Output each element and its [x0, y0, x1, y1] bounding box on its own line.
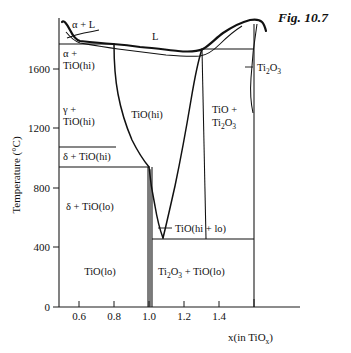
ti2o3-tio-lo-ti: Ti [158, 266, 167, 277]
label-delta-tio-lo: δ + TiO(lo) [66, 201, 114, 213]
phase-diagram-svg: 1600 1200 800 400 0 0.6 0.8 1.0 1.2 1.4 … [0, 0, 351, 353]
label-alpha-tio-hi-line2: TiO(hi) [63, 60, 95, 72]
figure-container: 1600 1200 800 400 0 0.6 0.8 1.0 1.2 1.4 … [0, 0, 351, 353]
label-ti2o3-plus-tio-lo: Ti2O3 + TiO(lo) [158, 266, 225, 280]
ti2o3-tio-lo-rest: + TiO(lo) [182, 266, 225, 278]
ti2o3-right-3: 3 [277, 67, 281, 76]
x-tick-label-1-0: 1.0 [142, 310, 156, 322]
x-axis-title: x(in TiOx) [228, 331, 273, 346]
svg-text:Ti2O3 + TiO(lo): Ti2O3 + TiO(lo) [158, 266, 225, 280]
ti2o3-stack-3: 3 [232, 122, 236, 131]
y-tick-label-800: 800 [34, 182, 51, 194]
x-axis-title-main: x(in TiO [228, 331, 266, 344]
ti2o3-stack-ti: Ti [212, 117, 221, 128]
label-alpha-plus-l: α + L [72, 19, 95, 30]
x-axis-title-close: ) [269, 331, 273, 344]
label-tio-hi-plus-lo: TiO(hi + lo) [175, 223, 227, 235]
label-ti2o3-right: Ti2O3 [257, 62, 281, 76]
y-axis-title: Temperature (°C) [10, 136, 23, 214]
label-tio-lo: TiO(lo) [84, 266, 116, 278]
figure-caption: Fig. 10.7 [277, 10, 329, 25]
label-delta-tio-hi: δ + TiO(hi) [63, 151, 111, 163]
y-tick-label-400: 400 [34, 241, 51, 253]
tio-ti2o3-left-boundary [202, 49, 206, 239]
svg-text:Ti2O3: Ti2O3 [212, 117, 236, 131]
label-tio-hi: TiO(hi) [131, 109, 163, 121]
label-gamma-tio-hi-line1: γ + [62, 104, 76, 115]
x-tick-label-1-4: 1.4 [212, 310, 226, 322]
label-liquid: L [152, 31, 158, 42]
y-tick-label-0: 0 [45, 301, 51, 313]
label-gamma-tio-hi-line2: TiO(hi) [63, 116, 95, 128]
tio-hi-left-boundary [114, 44, 149, 167]
svg-text:Ti2O3: Ti2O3 [257, 62, 281, 76]
y-tick-label-1600: 1600 [28, 63, 51, 75]
label-alpha-tio-hi-line1: α + [63, 48, 77, 59]
x-tick-label-1-2: 1.2 [177, 310, 191, 322]
label-ti2o3-stack: Ti2O3 [212, 117, 236, 131]
x-tick-label-0-6: 0.6 [72, 310, 86, 322]
ti2o3-right-ti: Ti [257, 62, 266, 73]
tio-hi-lo-right-branch [163, 49, 202, 238]
svg-text:x(in TiOx): x(in TiOx) [228, 331, 273, 346]
label-tio-plus: TiO + [212, 104, 237, 115]
y-tick-label-1200: 1200 [28, 122, 51, 134]
tio-hi-lo-left-branch [149, 167, 163, 238]
x-tick-label-0-8: 0.8 [107, 310, 121, 322]
